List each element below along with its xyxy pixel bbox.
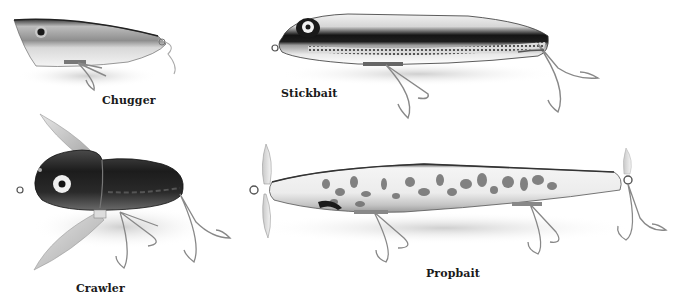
chugger-lure-illustration — [8, 10, 198, 95]
stickbait-lure-image — [268, 8, 613, 120]
crawler-caption: Crawler — [76, 282, 125, 295]
crawler-lure-illustration — [12, 112, 244, 280]
chugger-caption: Chugger — [102, 94, 156, 107]
propbait-lure-image — [244, 140, 674, 265]
stickbait-caption: Stickbait — [281, 87, 338, 100]
propbait-lure-illustration — [244, 140, 674, 265]
chugger-lure-image — [8, 10, 198, 95]
lure-types-figure: Chugger — [0, 0, 677, 301]
stickbait-lure-illustration — [268, 8, 613, 120]
crawler-lure-image — [12, 112, 244, 280]
propbait-caption: Propbait — [426, 267, 480, 280]
